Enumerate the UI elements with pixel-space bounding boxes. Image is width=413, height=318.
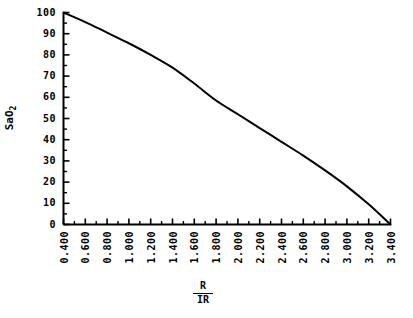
x-tick-label: 1.000 bbox=[124, 231, 136, 277]
x-tick-label: 2.000 bbox=[233, 231, 245, 277]
x-tick-label: 2.600 bbox=[298, 231, 310, 277]
x-tick-label: 3.000 bbox=[342, 231, 354, 277]
x-tick-label: 0.800 bbox=[102, 231, 114, 277]
x-tick-label: 1.400 bbox=[168, 231, 180, 277]
x-tick-label: 2.800 bbox=[320, 231, 332, 277]
x-axis-title-denominator: IR bbox=[181, 294, 225, 306]
x-tick-label: 0.600 bbox=[80, 231, 92, 277]
x-tick-label: 3.400 bbox=[386, 231, 398, 277]
x-tick-label: 2.400 bbox=[277, 231, 289, 277]
x-tick-label: 2.200 bbox=[255, 231, 267, 277]
chart-figure: SaO2 0102030405060708090100 0.4000.6000.… bbox=[0, 0, 413, 318]
x-tick-label: 0.400 bbox=[59, 231, 71, 277]
x-tick-label: 1.800 bbox=[211, 231, 223, 277]
x-tick-label: 1.600 bbox=[189, 231, 201, 277]
x-tick-label: 3.200 bbox=[364, 231, 376, 277]
x-axis-tick-labels: 0.4000.6000.8001.0001.2001.4001.6001.800… bbox=[0, 0, 413, 318]
x-tick-label: 1.200 bbox=[146, 231, 158, 277]
x-axis-title: R IR bbox=[181, 281, 225, 305]
x-axis-title-numerator: R bbox=[181, 281, 225, 293]
